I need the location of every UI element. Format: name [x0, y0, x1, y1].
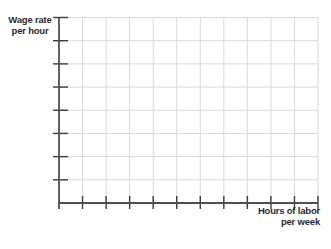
chart-canvas: Wage rate per hour Hours of labor per we… — [0, 0, 331, 249]
y-axis-label: Wage rate per hour — [4, 14, 56, 36]
y-axis-label-line1: Wage rate — [4, 14, 56, 25]
x-axis-label-line2: per week — [258, 216, 320, 227]
x-axis-label-line1: Hours of labor — [258, 205, 320, 216]
y-axis-label-line2: per hour — [4, 25, 56, 36]
x-axis-label: Hours of labor per week — [258, 205, 320, 227]
